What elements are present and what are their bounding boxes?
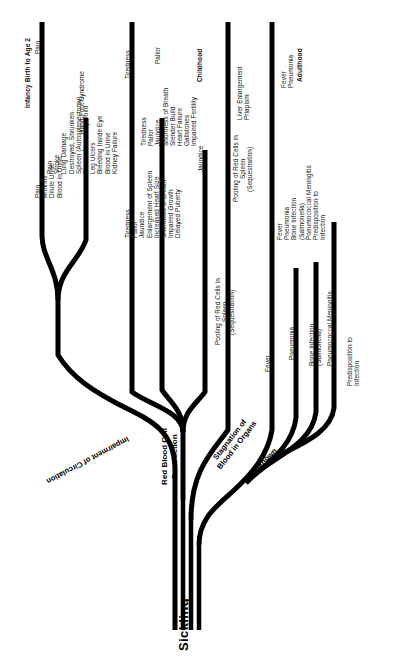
text-line: Increased Heart Size — [153, 176, 160, 238]
text-line: Heart Failure — [176, 108, 183, 146]
text-line: Pooling of Red Cells in — [214, 279, 221, 346]
text-line: Stroke — [53, 155, 60, 174]
text-line: (Sequestration) — [246, 146, 253, 191]
column-header-adulthood: Adulthood — [296, 22, 303, 82]
text-line: Infection — [319, 215, 326, 240]
leaf-infancy-pneumococcal-meningitis: Pneumococcal Meningitis — [326, 248, 333, 366]
leaf-infancy-sequestration: Pooling of Red Cells inSpleen(Sequestrat… — [214, 258, 236, 366]
text-line: Jaundice — [138, 212, 145, 238]
block-adulthood-impairment: PainStrokeLung DamageDestroyed, Shrunken… — [46, 24, 118, 174]
text-line: Pain — [46, 161, 53, 174]
pathway-label-red-blood-cell-destruction: Red Blood Cell Destruction — [160, 428, 180, 485]
text-line: Pallor — [147, 129, 154, 146]
text-line: Tiredness — [140, 117, 147, 146]
text-line: Bone Infection — [290, 198, 297, 240]
text-line: Impaired Fertility — [190, 97, 197, 146]
text-line: Lung Damage — [60, 133, 67, 174]
text-line: Predisposition to — [312, 191, 319, 240]
leaf-infancy-predisposition-to-infection: Predisposition toInfection — [346, 300, 360, 386]
rbc-line1: Red Blood Cell — [160, 428, 169, 485]
text-line: Spleen — [221, 302, 228, 323]
text-line: Tiredness — [124, 209, 131, 238]
text-line: (Sequestration) — [228, 289, 235, 334]
text-line: Bone Infection — [308, 324, 315, 366]
text-line: Pain — [34, 185, 41, 198]
leaf-infancy-pain: Pain — [34, 24, 41, 54]
rbc-line2: Destruction — [170, 434, 179, 478]
text-line: Enlargement of Spleen — [146, 171, 153, 238]
text-line: Fever — [280, 71, 287, 88]
text-line: Priapism — [243, 94, 250, 120]
leaf-infancy-pneumonia: Pneumonia — [288, 300, 295, 360]
text-line: Delayed Puberty — [174, 189, 181, 238]
text-line: (Salmonella) — [315, 329, 322, 366]
text-line: Impaired Growth — [167, 189, 174, 238]
root-label-sickling: Sickling — [176, 598, 191, 651]
text-line: Gallstones — [183, 115, 190, 146]
text-line: Bleeding Inside Eye — [96, 116, 103, 174]
text-line: Pneumonia — [283, 207, 290, 240]
block-adulthood-stagnation: Liver EnlargementPriapism — [236, 24, 250, 120]
text-line: Jaundice — [154, 120, 161, 146]
text-line: Pneumonia — [287, 55, 294, 88]
text-line: Shortness of Breath — [160, 180, 167, 238]
text-line: Leg Ulcers — [89, 142, 96, 174]
text-line: Spleen (Autosplenectomy) — [75, 97, 82, 174]
leaf-infancy-bone-infection: Bone Infection(Salmonella) — [308, 288, 322, 366]
block-childhood-unknown-infection: FeverPneumoniaBone Infection (Salmonella… — [276, 108, 326, 240]
text-line: Infection — [353, 361, 360, 386]
text-line: Kidney Failure — [111, 132, 118, 174]
text-line: Arthritis — [41, 175, 48, 198]
text-line: Pooling of Red Cells in — [232, 136, 239, 203]
leaf-infancy-fever: Fever — [264, 332, 271, 372]
text-line: Blood in Urine — [104, 132, 111, 174]
block-adulthood-unknown-infection: FeverPneumonia — [280, 24, 294, 88]
block-adulthood-rbc-destruction: TirednessPallorJaundiceShortness of Brea… — [140, 24, 198, 146]
text-line: Slender Build — [169, 107, 176, 146]
text-line: Spleen — [239, 159, 246, 180]
text-line: Destruction of Hip Joint — [82, 106, 89, 174]
text-line: Fever — [276, 223, 283, 240]
text-line: Predisposition to — [346, 337, 353, 386]
block-childhood-stagnation: Pooling of Red Cells inSpleen(Sequestrat… — [232, 110, 254, 228]
text-line: Destroyed, Shrunken — [68, 112, 75, 174]
leaf-infancy-tiredness: Tiredness — [124, 24, 131, 79]
text-line: Shortness of Breath — [162, 88, 169, 146]
text-line: Pneumococcal Meningitis — [305, 165, 312, 240]
text-line: Pallor — [131, 221, 138, 238]
text-line: Liver Enlargement — [236, 66, 243, 120]
column-header-infancy: Infancy Birth to Age 2 — [24, 22, 31, 108]
leaf-infancy-jaundice: Jaundice — [197, 122, 204, 172]
text-line: (Salmonella) — [298, 203, 305, 240]
